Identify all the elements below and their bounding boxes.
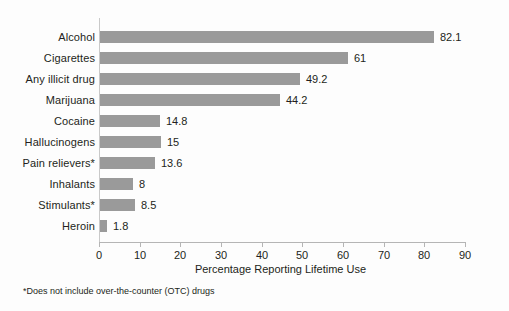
x-tick-label-20: 20 (160, 249, 200, 262)
x-tick-label-80: 80 (404, 249, 444, 262)
x-axis-line (99, 242, 466, 243)
bar-value-stimulants: 8.5 (141, 199, 156, 211)
x-tick-80 (424, 243, 425, 247)
bar-alcohol[interactable] (100, 31, 434, 43)
bar-value-cigarettes: 61 (354, 52, 366, 64)
category-label-heroin: Heroin (0, 220, 95, 232)
x-axis-title: Percentage Reporting Lifetime Use (0, 263, 509, 276)
x-tick-0 (99, 243, 100, 247)
bar-value-hallucinogens: 15 (167, 136, 179, 148)
x-tick-10 (140, 243, 141, 247)
bar-inhalants[interactable] (100, 178, 133, 190)
x-tick-60 (343, 243, 344, 247)
category-label-stimulants: Stimulants* (0, 199, 95, 211)
x-tick-label-60: 60 (323, 249, 363, 262)
category-label-alcohol: Alcohol (0, 31, 95, 43)
category-label-inhalants: Inhalants (0, 178, 95, 190)
bar-value-pain-relievers: 13.6 (161, 157, 182, 169)
category-label-cocaine: Cocaine (0, 115, 95, 127)
x-tick-label-40: 40 (242, 249, 282, 262)
bar-value-marijuana: 44.2 (286, 94, 307, 106)
category-label-any-illicit-drug: Any illicit drug (0, 73, 95, 85)
category-label-marijuana: Marijuana (0, 94, 95, 106)
bar-hallucinogens[interactable] (100, 136, 161, 148)
bar-any-illicit-drug[interactable] (100, 73, 300, 85)
bar-value-cocaine: 14.8 (166, 115, 187, 127)
bar-pain-relievers[interactable] (100, 157, 155, 169)
category-label-pain-relievers: Pain relievers* (0, 157, 95, 169)
x-tick-90 (465, 243, 466, 247)
x-tick-40 (262, 243, 263, 247)
bar-cigarettes[interactable] (100, 52, 348, 64)
category-label-hallucinogens: Hallucinogens (0, 136, 95, 148)
x-tick-label-0: 0 (79, 249, 119, 262)
x-tick-label-50: 50 (282, 249, 322, 262)
bar-cocaine[interactable] (100, 115, 160, 127)
bar-value-alcohol: 82.1 (440, 31, 461, 43)
bar-chart: Alcohol Cigarettes Any illicit drug Mari… (0, 0, 509, 311)
x-tick-label-90: 90 (445, 249, 485, 262)
x-tick-70 (384, 243, 385, 247)
x-tick-label-30: 30 (201, 249, 241, 262)
bar-marijuana[interactable] (100, 94, 280, 106)
bar-value-any-illicit-drug: 49.2 (306, 73, 327, 85)
chart-footnote: *Does not include over-the-counter (OTC)… (23, 286, 215, 297)
x-tick-50 (302, 243, 303, 247)
x-tick-20 (180, 243, 181, 247)
bar-heroin[interactable] (100, 220, 107, 232)
x-tick-label-70: 70 (364, 249, 404, 262)
x-tick-label-10: 10 (120, 249, 160, 262)
category-label-cigarettes: Cigarettes (0, 52, 95, 64)
bar-value-inhalants: 8 (139, 178, 145, 190)
bar-stimulants[interactable] (100, 199, 135, 211)
x-tick-30 (221, 243, 222, 247)
bar-value-heroin: 1.8 (113, 220, 128, 232)
